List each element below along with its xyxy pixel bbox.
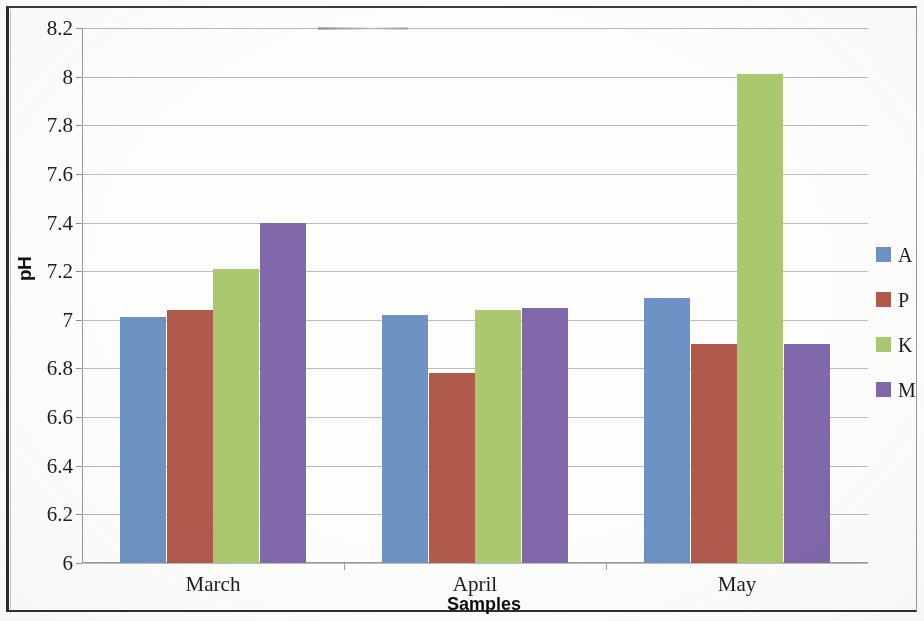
- category-separator: [344, 563, 345, 570]
- bar-march-a: [120, 317, 166, 563]
- legend-item-p: P: [876, 277, 920, 322]
- legend-label-k: K: [898, 335, 912, 355]
- chart-legend: APKM: [876, 232, 920, 412]
- legend-swatch-k: [876, 337, 891, 352]
- x-axis-title: Samples: [447, 594, 521, 615]
- gridline: [82, 563, 868, 564]
- bar-march-m: [260, 223, 306, 563]
- y-axis-title: pH: [14, 257, 36, 281]
- legend-item-a: A: [876, 232, 920, 277]
- bar-april-m: [522, 308, 568, 563]
- bar-april-k: [475, 310, 521, 563]
- y-tick-mark: [76, 563, 82, 564]
- ph-bar-chart: pH 8.287.87.67.47.276.86.66.46.26 MarchA…: [0, 0, 924, 621]
- legend-swatch-a: [876, 247, 891, 262]
- legend-label-a: A: [898, 245, 912, 265]
- legend-label-m: M: [898, 380, 916, 400]
- y-tick-label: 8: [63, 64, 74, 89]
- y-tick-label: 8.2: [47, 16, 73, 41]
- bars-layer: [82, 28, 868, 563]
- y-tick-label: 7.2: [47, 259, 73, 284]
- category-separator: [606, 563, 607, 570]
- y-tick-label: 7: [63, 307, 74, 332]
- y-tick-label: 6.6: [47, 405, 73, 430]
- y-tick-label: 6: [63, 551, 74, 576]
- bar-april-p: [429, 373, 475, 563]
- y-tick-label: 6.4: [47, 453, 73, 478]
- x-tick-label-march: March: [186, 572, 241, 597]
- plot-area: 8.287.87.67.47.276.86.66.46.26: [82, 28, 868, 563]
- bar-may-a: [644, 298, 690, 563]
- bar-may-p: [691, 344, 737, 563]
- bar-april-a: [382, 315, 428, 563]
- y-tick-label: 7.8: [47, 113, 73, 138]
- legend-label-p: P: [898, 290, 909, 310]
- legend-item-k: K: [876, 322, 920, 367]
- y-tick-label: 6.8: [47, 356, 73, 381]
- bar-may-k: [737, 74, 783, 563]
- legend-swatch-m: [876, 382, 891, 397]
- scanned-page: pH 8.287.87.67.47.276.86.66.46.26 MarchA…: [0, 0, 924, 621]
- bar-may-m: [784, 344, 830, 563]
- y-tick-label: 7.6: [47, 161, 73, 186]
- y-tick-label: 7.4: [47, 210, 73, 235]
- y-tick-label: 6.2: [47, 502, 73, 527]
- legend-item-m: M: [876, 367, 920, 412]
- bar-march-p: [167, 310, 213, 563]
- legend-swatch-p: [876, 292, 891, 307]
- x-tick-label-may: May: [718, 572, 757, 597]
- bar-march-k: [213, 269, 259, 563]
